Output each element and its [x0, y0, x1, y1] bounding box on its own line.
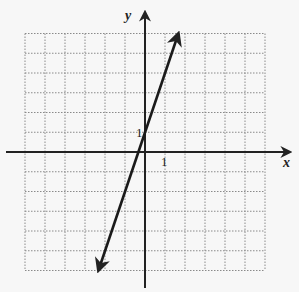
y-axis-label: y — [125, 8, 131, 24]
y-tick-label: 1 — [136, 125, 143, 141]
coordinate-plane — [0, 0, 299, 292]
x-axis-label: x — [283, 155, 290, 171]
x-tick-label: 1 — [161, 154, 168, 170]
